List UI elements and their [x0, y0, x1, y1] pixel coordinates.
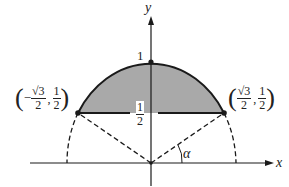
left-point-label: ( − √3 2 , 1 2 ): [15, 85, 69, 111]
y-axis-label: y: [145, 1, 151, 15]
x-axis-label: x: [276, 156, 282, 170]
left-point-x-den: 2: [35, 99, 41, 112]
right-point-comma: ,: [253, 92, 256, 111]
point-left: [75, 110, 81, 116]
angle-alpha-label: α: [183, 147, 190, 161]
right-point-y-num: 1: [258, 85, 266, 99]
left-point-y-den: 2: [54, 99, 60, 112]
angle-arc: [178, 145, 182, 163]
chord-height-den: 2: [137, 115, 143, 128]
chord-height-label: 1 2: [136, 101, 144, 127]
right-point-label: ( √3 2 , 1 2 ): [228, 85, 275, 111]
right-point-x-den: 2: [241, 99, 247, 112]
chord-height-num: 1: [136, 101, 144, 115]
left-point-y-num: 1: [53, 85, 61, 99]
dashed-arc-right: [224, 113, 236, 163]
point-origin: [149, 161, 153, 165]
left-point-comma: ,: [48, 92, 51, 111]
point-top: [148, 59, 153, 64]
left-point-sign: −: [24, 90, 31, 106]
top-value-label: 1: [137, 49, 144, 62]
x-axis-arrow-icon: [265, 160, 274, 166]
point-right: [221, 110, 227, 116]
right-point-y-den: 2: [259, 99, 265, 112]
y-axis-arrow-icon: [148, 16, 154, 25]
left-point-x-num: √3: [31, 85, 46, 99]
dashed-arc-left: [67, 113, 78, 163]
right-point-x-num: √3: [237, 85, 252, 99]
